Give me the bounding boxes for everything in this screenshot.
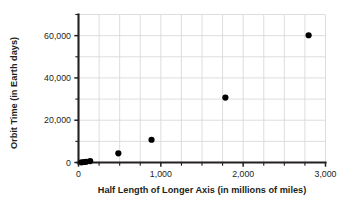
y-tick-label: 60,000 (44, 31, 71, 41)
x-axis-title: Half Length of Longer Axis (in millions … (98, 185, 306, 195)
data-point (306, 32, 312, 38)
y-tick-label: 20,000 (44, 115, 71, 125)
data-point (115, 150, 121, 156)
data-point (222, 95, 228, 101)
x-tick-label: 2,000 (232, 169, 254, 179)
data-point (87, 158, 93, 164)
y-axis-title: Orbit Time (in Earth days) (9, 37, 19, 149)
y-tick-label: 40,000 (44, 73, 71, 83)
y-tick-label: 0 (66, 158, 71, 168)
x-tick-label: 1,000 (150, 169, 172, 179)
scatter-plot-figure: 01,0002,0003,000 020,00040,00060,000 Hal… (0, 0, 354, 204)
x-tick-label: 3,000 (314, 169, 336, 179)
data-point (148, 137, 154, 143)
x-tick-label: 0 (76, 169, 81, 179)
plot-canvas: 01,0002,0003,000 020,00040,00060,000 Hal… (0, 0, 354, 204)
